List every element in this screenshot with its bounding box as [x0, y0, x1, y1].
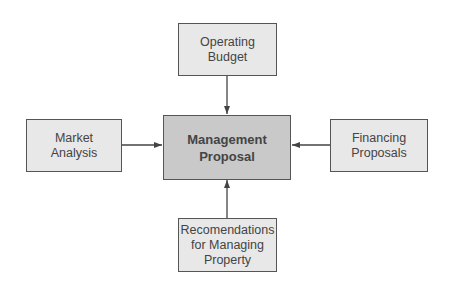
node-label-line: Property — [204, 253, 251, 268]
node-operating-budget: Operating Budget — [178, 23, 277, 76]
node-label-line: Management — [187, 131, 266, 148]
node-label-line: Market — [55, 131, 93, 146]
node-label-line: Financing — [352, 131, 406, 146]
node-label-line: Recomendations — [181, 223, 275, 238]
node-financing-proposals: Financing Proposals — [330, 119, 428, 172]
node-label-line: Budget — [208, 50, 248, 65]
node-label-line: Proposals — [351, 146, 407, 161]
node-label-line: Proposal — [199, 148, 255, 165]
node-market-analysis: Market Analysis — [26, 119, 122, 172]
node-recommendations: Recomendations for Managing Property — [178, 218, 277, 272]
node-label-line: Operating — [200, 35, 255, 50]
node-label-line: for Managing — [191, 238, 264, 253]
node-label-line: Analysis — [51, 146, 98, 161]
node-management-proposal: Management Proposal — [163, 115, 291, 180]
